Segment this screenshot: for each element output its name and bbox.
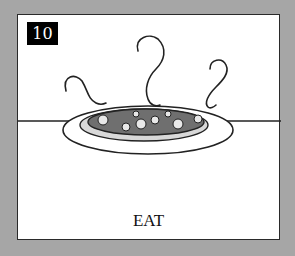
picture-card: 10 EAT bbox=[17, 14, 280, 240]
card-caption: EAT bbox=[18, 211, 279, 231]
steaming-plate-of-food-icon bbox=[18, 15, 281, 241]
steam-icon bbox=[65, 36, 227, 108]
